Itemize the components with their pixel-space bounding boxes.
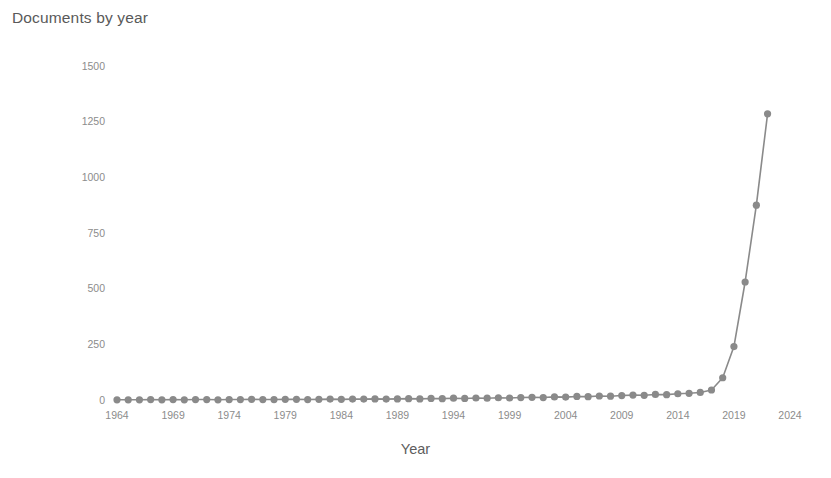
data-point-marker <box>607 393 614 400</box>
data-point-marker <box>585 393 592 400</box>
data-point-marker <box>685 390 692 397</box>
data-point-marker <box>371 395 378 402</box>
data-point-marker <box>394 395 401 402</box>
data-point-marker <box>484 395 491 402</box>
x-tick-label: 2009 <box>610 409 634 421</box>
data-point-marker <box>674 390 681 397</box>
data-point-marker <box>203 396 210 403</box>
data-point-marker <box>629 392 636 399</box>
x-tick-label: 1989 <box>386 409 410 421</box>
data-point-marker <box>461 395 468 402</box>
data-point-marker <box>113 396 120 403</box>
data-point-marker <box>181 396 188 403</box>
y-tick-label: 1000 <box>82 171 106 183</box>
data-point-marker <box>147 396 154 403</box>
x-tick-label: 1964 <box>105 409 129 421</box>
data-point-marker <box>136 396 143 403</box>
data-point-marker <box>517 394 524 401</box>
x-tick-label: 2019 <box>722 409 746 421</box>
data-point-marker <box>551 393 558 400</box>
data-point-marker <box>383 396 390 403</box>
data-point-marker <box>742 278 749 285</box>
y-axis-ticks: 0250500750100012501500 <box>82 60 106 406</box>
data-point-marker <box>472 394 479 401</box>
x-tick-label: 2024 <box>778 409 802 421</box>
x-tick-label: 1979 <box>274 409 298 421</box>
data-point-marker <box>641 392 648 399</box>
x-tick-label: 1974 <box>217 409 241 421</box>
y-tick-label: 1250 <box>82 115 106 127</box>
data-point-marker <box>270 396 277 403</box>
data-point-marker <box>663 391 670 398</box>
data-point-marker <box>226 396 233 403</box>
data-point-marker <box>753 202 760 209</box>
data-point-marker <box>439 395 446 402</box>
x-tick-label: 1984 <box>330 409 354 421</box>
data-point-marker <box>719 374 726 381</box>
data-point-marker <box>282 396 289 403</box>
data-point-marker <box>192 396 199 403</box>
data-point-marker <box>327 396 334 403</box>
y-tick-label: 250 <box>87 338 105 350</box>
data-point-marker <box>248 396 255 403</box>
data-point-marker <box>259 396 266 403</box>
data-point-marker <box>360 396 367 403</box>
data-point-marker <box>315 396 322 403</box>
data-point-marker <box>528 394 535 401</box>
data-point-marker <box>158 396 165 403</box>
data-point-marker <box>730 343 737 350</box>
data-point-marker <box>764 110 771 117</box>
data-point-marker <box>405 395 412 402</box>
series-markers <box>113 110 771 403</box>
data-point-marker <box>495 394 502 401</box>
data-point-marker <box>169 396 176 403</box>
data-point-marker <box>427 395 434 402</box>
series-line-documents <box>117 114 768 400</box>
data-point-marker <box>506 394 513 401</box>
data-point-marker <box>416 395 423 402</box>
x-tick-label: 2014 <box>666 409 690 421</box>
data-point-marker <box>618 392 625 399</box>
data-point-marker <box>708 386 715 393</box>
data-point-marker <box>540 394 547 401</box>
data-point-marker <box>125 396 132 403</box>
x-tick-label: 2004 <box>554 409 578 421</box>
data-point-marker <box>562 394 569 401</box>
x-tick-label: 1969 <box>161 409 185 421</box>
y-tick-label: 0 <box>99 394 105 406</box>
data-point-marker <box>450 395 457 402</box>
line-plot: 0250500750100012501500 19641969197419791… <box>0 0 831 478</box>
data-point-marker <box>214 396 221 403</box>
x-axis-ticks: 1964196919741979198419891994199920042009… <box>105 409 802 421</box>
x-tick-label: 1994 <box>442 409 466 421</box>
x-tick-label: 1999 <box>498 409 522 421</box>
data-point-marker <box>573 393 580 400</box>
y-tick-label: 1500 <box>82 60 106 72</box>
data-point-marker <box>596 392 603 399</box>
data-point-marker <box>304 396 311 403</box>
data-point-marker <box>349 396 356 403</box>
y-tick-label: 500 <box>87 282 105 294</box>
data-point-marker <box>652 391 659 398</box>
y-tick-label: 750 <box>87 227 105 239</box>
data-point-marker <box>697 389 704 396</box>
data-point-marker <box>293 396 300 403</box>
chart-container: Documents by year Documents Year 0250500… <box>0 0 831 478</box>
data-point-marker <box>338 396 345 403</box>
data-point-marker <box>237 396 244 403</box>
